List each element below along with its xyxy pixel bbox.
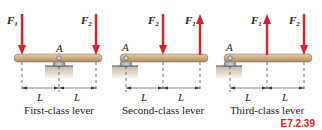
dim-label-right: L bbox=[73, 91, 80, 103]
pin bbox=[228, 56, 232, 60]
pivot-label: A bbox=[225, 41, 233, 53]
dim-label-left: L bbox=[36, 91, 43, 103]
caption-third-class: Third-class lever bbox=[230, 104, 305, 116]
beam bbox=[224, 54, 312, 62]
force-f1-arrow-up bbox=[263, 14, 271, 55]
dim-label-right: L bbox=[281, 91, 288, 103]
force-label-f1: F1 bbox=[184, 14, 196, 28]
pin bbox=[57, 56, 61, 60]
force-label-f1: F1 bbox=[250, 14, 262, 28]
pivot-label: A bbox=[121, 41, 129, 53]
caption-first-class: First-class lever bbox=[24, 104, 94, 116]
dim-label-right: L bbox=[177, 91, 184, 103]
lever-diagram: A L L F1 F2 First-class lever A bbox=[0, 0, 322, 130]
force-label-f2: F2 bbox=[147, 14, 159, 28]
panel-second-class: A L L F2 F1 Second-class lever bbox=[112, 14, 208, 116]
force-f2-arrow-down bbox=[159, 14, 167, 55]
ground bbox=[216, 66, 242, 80]
force-f1-arrow-down bbox=[18, 14, 26, 55]
force-f1-arrow-up bbox=[196, 14, 204, 55]
figure-id: E7.2.39 bbox=[281, 118, 316, 129]
panel-first-class: A L L F1 F2 First-class lever bbox=[6, 14, 102, 116]
dim-label-left: L bbox=[140, 91, 147, 103]
pin bbox=[124, 56, 128, 60]
force-label-f2: F2 bbox=[80, 14, 92, 28]
force-f2-arrow-down bbox=[300, 14, 308, 55]
caption-second-class: Second-class lever bbox=[122, 104, 204, 116]
panel-third-class: A L L F1 F2 Third-class lever bbox=[216, 14, 312, 116]
beam bbox=[120, 54, 208, 62]
dim-label-left: L bbox=[244, 91, 251, 103]
force-f2-arrow-down bbox=[92, 14, 100, 55]
pivot-label: A bbox=[55, 42, 63, 54]
force-label-f1: F1 bbox=[6, 14, 18, 28]
ground bbox=[112, 66, 138, 80]
force-label-f2: F2 bbox=[288, 14, 300, 28]
